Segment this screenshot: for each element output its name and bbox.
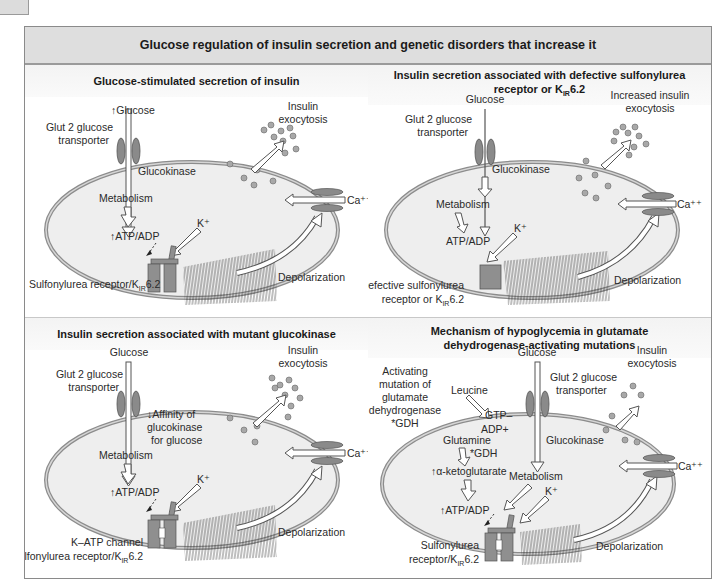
transporter-label: Glut 2 glucose <box>56 368 123 380</box>
exocytosis-label-2: exocytosis <box>625 102 674 114</box>
transporter-label: Glut 2 glucose <box>550 371 617 383</box>
panel-defective-sur: Insulin secretion associated with defect… <box>368 65 711 317</box>
atp-adp-label: ↑ATP/ADP <box>440 504 489 516</box>
exocytosis-label: Insulin <box>288 100 319 112</box>
metabolism-label: Metabolism <box>99 449 153 461</box>
sur-label: Sulfonylurea receptor/KIR6.2 <box>25 550 143 564</box>
exocytosis-arrow <box>616 406 639 430</box>
defective-sur-diagram: Glucose Glut 2 glucose transporter Gluco… <box>368 65 711 317</box>
calcium-label: Ca⁺⁺ <box>678 460 703 472</box>
panel-gdh-activating: Mechanism of hypoglycemia in glutamatede… <box>368 317 711 578</box>
transporter-label: Glut 2 glucose <box>405 113 472 125</box>
panel-grid: Glucose-stimulated secretion of insulin <box>25 65 711 578</box>
glutamine-label: Glutamine <box>443 434 491 446</box>
depolarization-label: Depolarization <box>596 540 663 552</box>
glucokinase-affinity-label-3: for glucose <box>151 434 203 446</box>
depolarization-label: Depolarization <box>614 274 681 286</box>
corner-tab <box>0 0 29 15</box>
depolarization-label: Depolarization <box>278 271 345 283</box>
exocytosis-label-2: exocytosis <box>278 113 327 125</box>
mutation-label-2: mutation of <box>379 378 431 390</box>
atp-adp-label: ↑ATP/ADP <box>110 486 159 498</box>
mutation-label: Activating <box>382 365 428 377</box>
katp-channel-label: K–ATP channel <box>71 536 143 548</box>
glucose-stimulated-diagram: ↑Glucose Glut 2 glucose transporter Gluc… <box>25 65 368 317</box>
exocytosis-label: Insulin <box>637 344 668 356</box>
alpha-ketoglutarate-label: ↑α-ketoglutarate <box>431 465 507 477</box>
metabolism-label: Metabolism <box>509 470 563 482</box>
transporter-label-2: transporter <box>417 126 468 138</box>
panel-glucose-stimulated: Glucose-stimulated secretion of insulin <box>25 65 368 317</box>
figure-frame: Glucose regulation of insulin secretion … <box>24 26 712 579</box>
exocytosis-label-2: exocytosis <box>278 357 327 369</box>
transporter-label-2: transporter <box>68 381 119 393</box>
potassium-label: K⁺ <box>545 485 558 497</box>
glucokinase-affinity-label-2: glucokinase <box>147 421 203 433</box>
panel-mutant-glucokinase: Insulin secretion associated with mutant… <box>25 317 368 578</box>
sur-label-2: receptor/KIR6.2 <box>409 553 479 567</box>
glucose-label: ↑Glucose <box>111 104 155 116</box>
gtp-label: GTP– <box>485 409 513 421</box>
potassium-label: K⁺ <box>197 473 210 485</box>
defective-sur-label: Defective sulfonylurea <box>368 279 464 291</box>
sur-label: Sulfonylurea <box>421 539 480 551</box>
leucine-label: Leucine <box>451 384 488 396</box>
calcium-label: Ca⁺⁺ <box>347 194 368 206</box>
transporter-label-2: transporter <box>58 134 109 146</box>
metabolism-label: Metabolism <box>436 198 490 210</box>
calcium-label: Ca⁺⁺ <box>677 198 702 210</box>
mutant-glucokinase-diagram: Glucose Glut 2 glucose transporter ↓Affi… <box>25 318 368 578</box>
depolarization-label: Depolarization <box>278 526 345 538</box>
transporter-label-2: transporter <box>556 384 607 396</box>
mutation-label-3: glutamate <box>382 391 428 403</box>
gdh-label: *GDH <box>470 447 497 459</box>
exocytosis-label: Increased insulin <box>611 89 690 101</box>
glucokinase-label: Glucokinase <box>546 434 604 446</box>
figure-title: Glucose regulation of insulin secretion … <box>25 27 711 65</box>
atp-adp-label: ↑ATP/ADP <box>110 230 159 242</box>
exocytosis-label-2: exocytosis <box>627 357 676 369</box>
mutation-label-4: dehydrogenase <box>369 404 442 416</box>
calcium-label: Ca⁺⁺ <box>347 447 368 459</box>
glucose-label: Glucose <box>518 346 557 358</box>
glucokinase-label: Glucokinase <box>138 165 196 177</box>
atp-adp-label: ATP/ADP <box>446 235 490 247</box>
glucokinase-label: Glucokinase <box>492 163 550 175</box>
mutation-label-5: *GDH <box>391 417 418 429</box>
glucose-label: Glucose <box>110 346 149 358</box>
glucose-label: Glucose <box>466 93 505 105</box>
potassium-label: K⁺ <box>514 222 527 234</box>
exocytosis-label: Insulin <box>288 344 319 356</box>
transporter-label: Glut 2 glucose <box>46 121 113 133</box>
metabolism-label: Metabolism <box>99 192 153 204</box>
glucokinase-affinity-label: ↓Affinity of <box>147 408 195 420</box>
gdh-activating-diagram: Activating mutation of glutamate dehydro… <box>368 318 711 578</box>
exocytosis-arrow <box>251 141 284 173</box>
defective-channel-icon <box>480 265 501 289</box>
defective-sur-label-2: receptor or KIR6.2 <box>382 293 464 307</box>
potassium-label: K⁺ <box>197 217 210 229</box>
